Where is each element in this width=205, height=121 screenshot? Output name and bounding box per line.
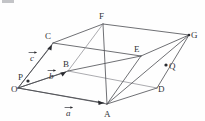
vector-b-overbar-tip-icon [53, 69, 56, 71]
vector-label-a-text: a [66, 108, 71, 118]
edge-E-C [53, 43, 141, 56]
vertex-label-D: D [158, 84, 165, 94]
edge-A-G [107, 35, 189, 104]
vector-label-b-text: b [49, 71, 54, 81]
vertex-label-G: G [191, 30, 198, 40]
point-label-Q: Q [169, 61, 176, 71]
vector-b-shaft [18, 72, 66, 88]
point-marker-P [26, 79, 29, 82]
vertex-label-C: C [45, 31, 51, 41]
point-marker-Q [164, 63, 167, 66]
vector-label-a: a [65, 106, 73, 118]
vector-a-shaft [18, 88, 104, 103]
vector-a-overbar-tip-icon [70, 106, 73, 108]
edge-A-D [107, 88, 157, 104]
edge-G-E [141, 35, 189, 56]
parallelepiped-diagram: O A B C D E F G P Q a b c [0, 0, 205, 121]
vertex-label-A: A [104, 109, 111, 119]
vertex-label-E: E [134, 44, 140, 54]
point-marker-G [188, 34, 191, 37]
vector-c-overbar-tip-icon [34, 51, 37, 53]
vector-b-arrowhead-icon [60, 72, 66, 76]
vertex-label-F: F [99, 11, 104, 21]
vector-a-arrowhead-icon [98, 101, 104, 105]
vertex-label-B: B [63, 59, 69, 69]
point-label-P: P [18, 72, 23, 82]
vertex-label-O: O [11, 84, 18, 94]
vector-label-c-text: c [30, 53, 34, 63]
vector-label-c: c [29, 51, 37, 63]
figure-canvas: O A B C D E F G P Q a b c [0, 0, 205, 121]
edge-F-G [103, 24, 189, 35]
vector-c-shaft [18, 45, 52, 88]
